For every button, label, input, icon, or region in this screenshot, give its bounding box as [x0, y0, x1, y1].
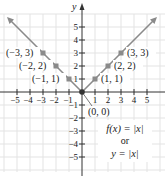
- label-2-2: (2, 2): [114, 60, 136, 72]
- label-neg2-2: (−2, 2): [19, 60, 46, 72]
- point-labels: (−3, 3) (−2, 2) (−1, 1) (1, 1) (2, 2) (3…: [5, 47, 156, 118]
- x-tick-label: −4: [23, 95, 33, 105]
- y-tick-label: 4: [74, 35, 79, 45]
- x-tick-label: −5: [10, 95, 20, 105]
- label-1-1: (1, 1): [101, 73, 123, 85]
- point-origin: [79, 89, 85, 95]
- point-1-1: [93, 77, 98, 82]
- label-neg1-1: (−1, 1): [32, 73, 59, 85]
- x-tick-label: −3: [36, 95, 46, 105]
- x-tick-label: 2: [106, 95, 111, 105]
- y-tick-label: −3: [68, 126, 78, 136]
- x-tick-label: 4: [132, 95, 137, 105]
- x-tick-label: −2: [49, 95, 59, 105]
- y-tick-label: 3: [74, 48, 79, 58]
- label-3-3: (3, 3): [127, 47, 149, 59]
- label-neg3-3: (−3, 3): [6, 47, 33, 59]
- point-3-3: [119, 51, 124, 56]
- point-neg1-1: [67, 77, 72, 82]
- y-axis-label: y: [71, 1, 77, 12]
- graph-canvas: −5 −4 −3 −2 −1 1 2 3 4 5 5 4 3 2 1 −1 −2…: [0, 0, 165, 176]
- x-tick-label: 3: [119, 95, 124, 105]
- equation-line-3: y = |x|: [110, 148, 138, 159]
- equation-line-2: or: [121, 135, 130, 146]
- x-tick-label: 1: [93, 95, 98, 105]
- y-tick-label: 1: [74, 74, 79, 84]
- x-tick-labels: −5 −4 −3 −2 −1 1 2 3 4 5: [10, 95, 150, 105]
- equation-line-1: f(x) = |x|: [106, 123, 143, 135]
- y-tick-label: −1: [68, 100, 78, 110]
- y-tick-label: −4: [68, 139, 78, 149]
- x-tick-label: 5: [145, 95, 150, 105]
- point-2-2: [106, 64, 111, 69]
- label-origin: (0, 0): [88, 106, 110, 118]
- y-axis-arrow-icon: [80, 3, 85, 10]
- y-tick-label: −5: [68, 152, 78, 162]
- y-tick-label: −2: [68, 113, 78, 123]
- equation-label: f(x) = |x| or y = |x|: [98, 120, 152, 162]
- point-neg3-3: [41, 51, 46, 56]
- y-tick-label: 5: [74, 22, 79, 32]
- point-neg2-2: [54, 64, 59, 69]
- y-tick-label: 2: [74, 61, 79, 71]
